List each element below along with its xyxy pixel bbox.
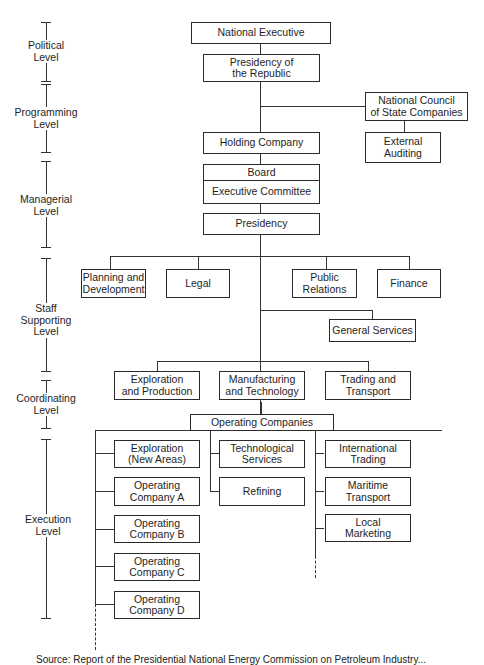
node-presidency-republic: Presidency of the Republic — [203, 54, 320, 82]
connector — [372, 310, 373, 319]
connector — [260, 203, 261, 213]
connector — [95, 430, 96, 604]
level-tick — [41, 371, 51, 372]
connector — [260, 106, 365, 107]
node-holding-company: Holding Company — [203, 132, 320, 154]
connector — [326, 256, 327, 269]
level-tick — [41, 152, 51, 153]
connector — [260, 82, 261, 132]
level-tick — [41, 81, 51, 82]
node-refining: Refining — [219, 477, 305, 506]
node-manufacturing-technology: Manufacturing and Technology — [219, 371, 305, 400]
node-maritime-transport: Maritime Transport — [325, 477, 411, 506]
source-caption: Source: Report of the Presidential Natio… — [36, 654, 426, 665]
connector — [210, 430, 211, 491]
node-operating-companies: Operating Companies — [190, 414, 334, 431]
level-label-execution: Execution Level — [6, 514, 90, 537]
connector-dashed — [95, 604, 96, 650]
node-technological-services: Technological Services — [219, 440, 305, 468]
connector — [260, 153, 261, 164]
node-local-marketing: Local Marketing — [325, 514, 411, 542]
node-exploration-production: Exploration and Production — [114, 371, 200, 400]
connector — [260, 43, 261, 54]
connector — [95, 453, 114, 454]
node-executive-committee: Executive Committee — [203, 180, 320, 204]
node-operating-company-a: Operating Company A — [114, 477, 200, 506]
node-exploration-new-areas: Exploration (New Areas) — [114, 440, 200, 468]
level-tick — [41, 247, 51, 248]
connector — [315, 453, 324, 454]
node-national-executive: National Executive — [191, 22, 331, 44]
connector — [261, 402, 262, 414]
connector — [198, 256, 199, 269]
node-operating-company-d: Operating Company D — [114, 591, 200, 619]
node-operating-company-b: Operating Company B — [114, 515, 200, 543]
connector — [210, 491, 219, 492]
level-label-political: Political Level — [4, 40, 88, 63]
connector — [315, 528, 324, 529]
connector — [95, 566, 114, 567]
connector — [157, 361, 368, 362]
node-board: Board — [203, 164, 320, 181]
node-public-relations: Public Relations — [292, 269, 357, 298]
node-national-council: National Council of State Companies — [365, 92, 468, 121]
level-label-coordinating: Coordinating Level — [4, 393, 88, 416]
connector — [210, 453, 219, 454]
connector — [95, 604, 114, 605]
node-presidency: Presidency — [203, 213, 320, 235]
level-label-managerial: Managerial Level — [4, 194, 88, 217]
connector — [260, 310, 372, 311]
node-external-auditing: External Auditing — [365, 132, 441, 163]
node-finance: Finance — [377, 269, 441, 298]
level-label-staff-supporting: Staff Supporting Level — [4, 303, 88, 338]
node-planning-development: Planning and Development — [81, 269, 146, 298]
connector — [157, 361, 158, 371]
connector — [95, 491, 114, 492]
node-legal: Legal — [166, 269, 230, 298]
node-operating-company-c: Operating Company C — [114, 553, 200, 581]
connector — [95, 529, 114, 530]
connector — [315, 491, 324, 492]
connector — [368, 361, 369, 371]
node-general-services: General Services — [329, 319, 416, 342]
connector — [110, 256, 111, 269]
connector — [404, 120, 405, 132]
connector — [409, 256, 410, 269]
node-trading-transport: Trading and Transport — [325, 371, 411, 400]
level-tick — [41, 428, 51, 429]
node-international-trading: International Trading — [325, 440, 411, 468]
connector — [110, 256, 410, 257]
level-label-programming: Programming Level — [4, 107, 88, 130]
level-tick — [41, 618, 51, 619]
connector-dashed — [315, 532, 316, 578]
